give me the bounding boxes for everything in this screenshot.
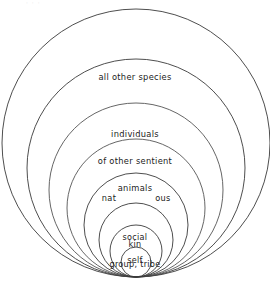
circle-kin (110, 225, 162, 277)
circle-all-other-species (2, 9, 270, 277)
circle-unlabeled-outer-mid (49, 103, 223, 277)
moral-circles-figure: · · · all other species individuals of o… (0, 0, 270, 287)
circle-sentient-animals (27, 59, 245, 277)
circle-unlabeled-mid (67, 139, 205, 277)
circle-social-group-tribe (99, 203, 173, 277)
circle-self (121, 247, 151, 277)
circles-canvas (0, 0, 270, 287)
